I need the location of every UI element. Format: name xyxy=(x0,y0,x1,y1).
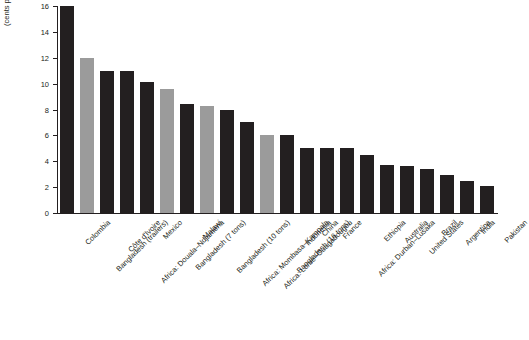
bar xyxy=(80,58,94,213)
x-axis-category-label: Pakistan xyxy=(502,218,529,245)
bar xyxy=(340,148,354,213)
x-axis-category-label: Bangladesh (trailers) xyxy=(114,218,169,273)
y-axis-tick-label: 8 xyxy=(29,105,49,114)
bar-slot xyxy=(297,6,317,213)
y-axis-tick-mark xyxy=(53,135,57,136)
y-axis-tick-mark xyxy=(53,110,57,111)
bar-slot xyxy=(477,6,497,213)
y-axis-title-line-2: (cents per ton per kilometer) xyxy=(2,0,12,54)
bar-slot xyxy=(337,6,357,213)
bar xyxy=(260,135,274,213)
bar-slot xyxy=(317,6,337,213)
bar-slot xyxy=(397,6,417,213)
bar xyxy=(60,6,74,213)
bar-slot xyxy=(237,6,257,213)
x-axis-line xyxy=(57,213,498,214)
y-axis-tick-mark xyxy=(53,84,57,85)
bar xyxy=(440,175,454,213)
y-axis-tick-mark xyxy=(53,161,57,162)
bar-slot xyxy=(197,6,217,213)
bar xyxy=(480,186,494,213)
x-axis-category-labels: ColombiaBangladesh (trailers)Côte d'Ivoi… xyxy=(57,216,497,336)
y-axis-tick-label: 16 xyxy=(29,2,49,11)
x-axis-category-label: India xyxy=(479,218,497,236)
bar-slot xyxy=(157,6,177,213)
bar-slot xyxy=(177,6,197,213)
bar-slot xyxy=(377,6,397,213)
plot-area xyxy=(57,6,497,213)
bar-slot xyxy=(117,6,137,213)
y-axis-title: Trucking rates (cents per ton per kilome… xyxy=(0,0,12,54)
bar-slot xyxy=(137,6,157,213)
bar-slot xyxy=(357,6,377,213)
bar xyxy=(100,71,114,213)
y-axis-tick-label: 0 xyxy=(29,209,49,218)
y-axis-tick-mark xyxy=(53,32,57,33)
bar xyxy=(400,166,414,213)
bar xyxy=(180,104,194,213)
bar-slot xyxy=(277,6,297,213)
bar-slot xyxy=(77,6,97,213)
y-axis-tick-mark xyxy=(53,58,57,59)
bar-slot xyxy=(217,6,237,213)
bar xyxy=(300,148,314,213)
bar xyxy=(320,148,334,213)
x-axis-category-label: Colombia xyxy=(83,218,112,247)
bar-slot xyxy=(97,6,117,213)
bar-slot xyxy=(417,6,437,213)
bar-slot xyxy=(57,6,77,213)
bar xyxy=(220,110,234,214)
bar-slot xyxy=(257,6,277,213)
bar xyxy=(240,122,254,213)
y-axis-tick-label: 6 xyxy=(29,131,49,140)
bar xyxy=(200,106,214,213)
y-axis-tick-mark xyxy=(53,213,57,214)
bars-container xyxy=(57,6,497,213)
y-axis-tick-label: 4 xyxy=(29,157,49,166)
y-axis-tick-label: 10 xyxy=(29,79,49,88)
bar xyxy=(280,135,294,213)
bar-slot xyxy=(457,6,477,213)
bar xyxy=(460,181,474,213)
bar-slot xyxy=(437,6,457,213)
y-axis-tick-label: 12 xyxy=(29,53,49,62)
y-axis-tick-mark xyxy=(53,187,57,188)
y-axis-tick-label: 14 xyxy=(29,27,49,36)
y-axis-tick-label: 2 xyxy=(29,183,49,192)
bar xyxy=(360,155,374,213)
bar xyxy=(160,89,174,213)
bar xyxy=(420,169,434,213)
y-axis-tick-mark xyxy=(53,6,57,7)
bar xyxy=(120,71,134,213)
bar xyxy=(380,165,394,213)
bar xyxy=(140,82,154,213)
